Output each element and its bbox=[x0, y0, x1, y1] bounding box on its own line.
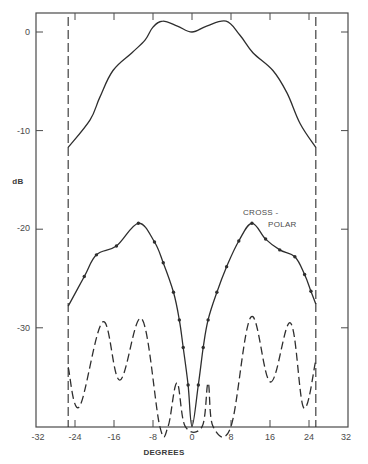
dashed-reference-curve bbox=[68, 316, 316, 437]
data-series bbox=[68, 21, 316, 437]
xtick-label: -32 bbox=[31, 432, 44, 442]
cross-polar-curve bbox=[68, 223, 316, 426]
data-point-marker bbox=[137, 222, 140, 225]
data-point-marker bbox=[186, 383, 189, 386]
data-point-marker bbox=[83, 275, 86, 278]
data-point-marker bbox=[178, 318, 181, 321]
data-point-marker bbox=[153, 240, 156, 243]
data-point-marker bbox=[172, 291, 175, 294]
ytick-label-0: 0 bbox=[25, 27, 30, 37]
antenna-pattern-chart: 0 -10 -20 -30 dB -32 -24 -16 -8 0 8 16 2… bbox=[0, 0, 368, 464]
xtick-label: 0 bbox=[189, 432, 194, 442]
xtick-label: -24 bbox=[68, 432, 81, 442]
data-point-marker bbox=[309, 290, 312, 293]
cross-polar-annotation-line1: CROSS - bbox=[243, 208, 278, 217]
data-point-marker bbox=[225, 265, 228, 268]
plot-frame bbox=[36, 13, 348, 427]
data-point-marker bbox=[215, 291, 218, 294]
xtick-label: 32 bbox=[341, 432, 351, 442]
data-point-marker bbox=[264, 237, 267, 240]
data-point-marker bbox=[202, 346, 205, 349]
data-point-marker bbox=[250, 222, 253, 225]
xtick-label: -16 bbox=[107, 432, 120, 442]
y-axis-label: dB bbox=[12, 177, 23, 186]
xtick-label: 16 bbox=[265, 432, 275, 442]
data-point-marker bbox=[182, 346, 185, 349]
co-polar-curve bbox=[68, 21, 316, 148]
data-point-marker bbox=[278, 248, 281, 251]
data-point-marker bbox=[95, 253, 98, 256]
data-point-marker bbox=[197, 383, 200, 386]
axis-ticks bbox=[36, 13, 348, 427]
data-point-marker bbox=[162, 261, 165, 264]
data-point-marker bbox=[115, 244, 118, 247]
data-point-marker bbox=[303, 273, 306, 276]
ytick-label-minus30: -30 bbox=[17, 323, 30, 333]
data-point-marker bbox=[293, 255, 296, 258]
xtick-label: -8 bbox=[149, 432, 157, 442]
x-axis-label: DEGREES bbox=[143, 448, 185, 457]
data-point-marker bbox=[206, 318, 209, 321]
ytick-label-minus10: -10 bbox=[17, 126, 30, 136]
cross-polar-annotation-line2: POLAR bbox=[268, 220, 297, 229]
xtick-label: 8 bbox=[228, 432, 233, 442]
data-point-marker bbox=[237, 239, 240, 242]
xtick-label: 24 bbox=[304, 432, 314, 442]
ytick-label-minus20: -20 bbox=[17, 223, 30, 233]
